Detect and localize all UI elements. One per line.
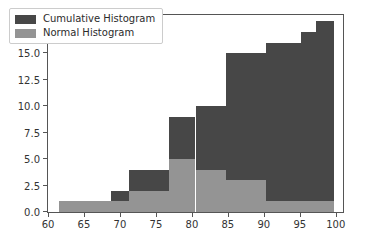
legend-swatch-normal	[15, 29, 36, 38]
legend-item: Cumulative Histogram	[15, 14, 155, 24]
legend-item: Normal Histogram	[15, 28, 155, 38]
x-tick	[192, 212, 193, 217]
x-tick	[120, 212, 121, 217]
y-tick-label: 10.0	[18, 101, 40, 112]
bar-normal-4	[196, 170, 227, 212]
x-tick	[84, 212, 85, 217]
legend-label-cumulative: Cumulative Histogram	[43, 14, 155, 24]
y-tick	[43, 158, 48, 159]
x-tick	[228, 212, 229, 217]
bar-normal-1	[111, 201, 128, 212]
plot-area	[48, 15, 343, 212]
x-tick-label: 85	[222, 219, 235, 230]
y-tick-label: 5.0	[24, 154, 40, 165]
bar-cumulative-7	[301, 32, 315, 212]
bar-normal-0	[59, 201, 112, 212]
x-tick	[156, 212, 157, 217]
matplotlib-figure: 0.02.55.07.510.012.515.017.5606570758085…	[0, 0, 365, 248]
y-tick-label: 2.5	[24, 180, 40, 191]
y-tick	[43, 105, 48, 106]
x-tick	[264, 212, 265, 217]
y-tick-label: 0.0	[24, 207, 40, 218]
bar-normal-5	[226, 180, 266, 212]
x-tick-label: 70	[114, 219, 127, 230]
bar-normal-3	[169, 159, 196, 212]
bar-normal-2	[129, 191, 169, 212]
x-tick-label: 75	[150, 219, 163, 230]
legend-swatch-cumulative	[15, 15, 36, 24]
bar-cumulative-8	[316, 21, 334, 212]
x-tick	[48, 212, 49, 217]
x-tick-label: 95	[293, 219, 306, 230]
y-tick	[43, 52, 48, 53]
x-tick	[300, 212, 301, 217]
x-tick-label: 90	[257, 219, 270, 230]
y-tick-label: 7.5	[24, 127, 40, 138]
x-tick-label: 65	[78, 219, 91, 230]
x-tick-label: 80	[186, 219, 199, 230]
chart-legend: Cumulative Histogram Normal Histogram	[9, 8, 163, 44]
legend-label-normal: Normal Histogram	[43, 28, 134, 38]
y-tick	[43, 132, 48, 133]
bar-normal-8	[316, 201, 334, 212]
y-tick	[43, 185, 48, 186]
x-tick-label: 100	[326, 219, 345, 230]
bar-normal-6	[266, 201, 301, 212]
bar-normal-7	[301, 201, 315, 212]
bar-cumulative-6	[266, 43, 301, 212]
x-tick	[336, 212, 337, 217]
x-tick-label: 60	[42, 219, 55, 230]
y-tick	[43, 79, 48, 80]
y-tick-label: 15.0	[18, 48, 40, 59]
y-tick-label: 12.5	[18, 74, 40, 85]
